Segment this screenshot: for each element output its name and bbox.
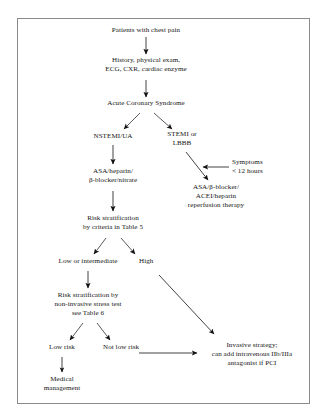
node-line: can add intravenous IIb/IIIa [200, 350, 304, 359]
node-line: Low risk [40, 343, 84, 352]
node-line: Medical [32, 375, 92, 384]
node-line: < 12 hours [232, 167, 294, 176]
node-line: non-invasive stress test [36, 300, 140, 309]
node-risk-stratification-table6: Risk stratification by non-invasive stre… [36, 291, 140, 319]
node-not-low-risk: Not low risk [103, 343, 165, 352]
node-line: β-blocker/nitrate [63, 176, 163, 185]
node-line: ASA/heparin/ [63, 167, 163, 176]
node-line: management [32, 384, 92, 393]
node-line: reperfusion therapy [164, 201, 268, 210]
node-line: Not low risk [103, 343, 165, 352]
node-medical-management: Medical management [32, 375, 92, 393]
node-line: Acute Coronary Syndrome [96, 99, 196, 108]
node-line: Patients with chest pain [96, 26, 196, 35]
node-invasive-strategy: Invasive strategy; can add intravenous I… [200, 341, 304, 369]
node-line: History, physical exam, [86, 56, 206, 65]
node-nstemi-ua: NSTEMI/UA [83, 132, 143, 141]
node-line: see Table 6 [36, 309, 140, 318]
node-line: Symptoms [232, 158, 294, 167]
node-high: High [139, 257, 169, 266]
node-initial-workup: History, physical exam, ECG, CXR, cardia… [86, 56, 206, 74]
figure-canvas: Patients with chest pain History, physic… [0, 0, 326, 420]
node-risk-stratification-table5: Risk stratification by criteria in Table… [61, 214, 165, 232]
node-reperfusion-therapy: ASA/β-blocker/ ACEI/heparin reperfusion … [164, 183, 268, 211]
node-line: LBBB [155, 139, 209, 148]
node-asa-heparin-betablocker-nitrate: ASA/heparin/ β-blocker/nitrate [63, 167, 163, 185]
node-line: antagonist if PCI [200, 359, 304, 368]
node-line: Risk stratification [61, 214, 165, 223]
node-line: ACEI/heparin [164, 192, 268, 201]
node-stemi-or-lbbb: STEMI or LBBB [155, 130, 209, 148]
node-low-or-intermediate: Low or intermediate [46, 257, 130, 266]
node-line: by criteria in Table 5 [61, 223, 165, 232]
node-line: Invasive strategy; [200, 341, 304, 350]
node-low-risk: Low risk [40, 343, 84, 352]
node-line: NSTEMI/UA [83, 132, 143, 141]
node-line: High [139, 257, 169, 266]
node-acute-coronary-syndrome: Acute Coronary Syndrome [96, 99, 196, 108]
node-patients-with-chest-pain: Patients with chest pain [96, 26, 196, 35]
node-line: ASA/β-blocker/ [164, 183, 268, 192]
node-symptoms-under-12-hours: Symptoms < 12 hours [232, 158, 294, 176]
node-line: Risk stratification by [36, 291, 140, 300]
node-line: Low or intermediate [46, 257, 130, 266]
node-line: STEMI or [155, 130, 209, 139]
node-line: ECG, CXR, cardiac enzyme [86, 65, 206, 74]
